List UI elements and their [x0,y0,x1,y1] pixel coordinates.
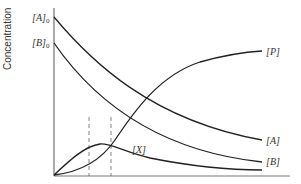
label-B: [B] [266,156,280,167]
curve-B [54,43,262,162]
concentration-chart: [A]0 [B]0 [P] [A] [B] [X] [0,0,301,184]
label-P: [P] [266,46,280,57]
curve-P [54,51,262,175]
curve-A [54,17,262,140]
curve-X [54,144,262,175]
label-A: [A] [266,135,280,146]
label-X: [X] [132,144,146,155]
label-B0: [B]0 [32,37,50,50]
label-A0: [A]0 [32,12,50,25]
